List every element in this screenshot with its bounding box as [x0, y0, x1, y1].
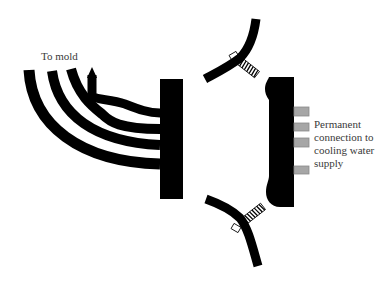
water-connector-3	[294, 138, 309, 147]
cooling-label-line-2: connection to	[314, 131, 374, 143]
water-connector-4	[294, 166, 309, 174]
left-manifold-block	[160, 79, 183, 199]
cooling-label-line-4: supply	[314, 157, 344, 169]
mold-hoses	[29, 67, 160, 164]
hose-4-tip	[87, 67, 97, 78]
cooling-label-line-3: cooling water	[314, 144, 375, 156]
water-connectors	[294, 107, 309, 174]
cooling-label-line-1: Permanent	[314, 118, 361, 130]
upper-clamp	[205, 19, 259, 79]
water-connector-2	[294, 123, 309, 131]
cooling-manifold-diagram: To mold Permanent connection to cooling …	[0, 0, 391, 282]
to-mold-label: To mold	[41, 50, 78, 62]
hose-4	[92, 75, 160, 113]
lower-clamp-lever	[206, 199, 258, 266]
cooling-supply-label: Permanent connection to cooling water su…	[314, 118, 375, 169]
water-connector-1	[294, 107, 309, 116]
right-manifold-block	[265, 77, 294, 207]
lower-clamp	[206, 199, 265, 266]
